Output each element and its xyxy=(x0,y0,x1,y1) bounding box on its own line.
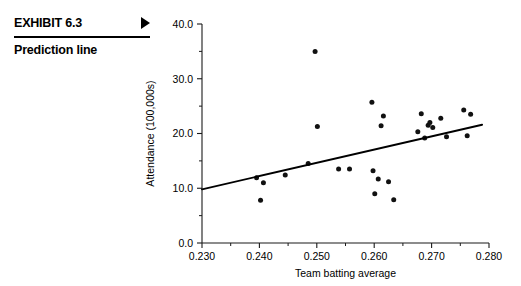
data-point xyxy=(438,116,443,121)
exhibit-subtitle-label: Prediction line xyxy=(14,43,156,57)
x-tick-label: 0.280 xyxy=(476,250,502,262)
exhibit-header: EXHIBIT 6.3 Prediction line xyxy=(14,14,156,57)
y-tick-label: 10.0 xyxy=(173,182,194,194)
data-point xyxy=(369,100,374,105)
data-point xyxy=(313,49,318,54)
regression-line-layer xyxy=(202,125,482,190)
data-point xyxy=(430,125,435,130)
data-point xyxy=(419,111,424,116)
data-point xyxy=(391,197,396,202)
exhibit-title-row: EXHIBIT 6.3 xyxy=(14,14,156,32)
data-points-layer xyxy=(254,49,473,203)
x-tick-label: 0.230 xyxy=(189,250,215,262)
exhibit-number-label: EXHIBIT 6.3 xyxy=(14,16,82,30)
x-tick-label: 0.260 xyxy=(361,250,387,262)
y-tick-label: 30.0 xyxy=(173,73,194,85)
x-tick-label: 0.270 xyxy=(418,250,444,262)
y-tick-label: 20.0 xyxy=(173,127,194,139)
data-point xyxy=(372,191,377,196)
data-point xyxy=(376,176,381,181)
y-axis: 0.010.020.030.040.0 xyxy=(173,18,202,249)
data-point xyxy=(258,198,263,203)
data-point xyxy=(427,120,432,125)
data-point xyxy=(415,129,420,134)
y-axis-title: Attendance (100,000s) xyxy=(144,80,156,186)
data-point xyxy=(381,113,386,118)
data-point xyxy=(347,167,352,172)
data-point xyxy=(465,133,470,138)
data-point xyxy=(371,168,376,173)
y-tick-label: 0.0 xyxy=(178,237,193,249)
data-point xyxy=(336,167,341,172)
chart-canvas: 0.010.020.030.040.0 0.2300.2400.2500.260… xyxy=(138,8,513,280)
y-tick-label: 40.0 xyxy=(173,18,194,30)
exhibit-divider xyxy=(14,36,150,38)
scatter-chart: 0.010.020.030.040.0 0.2300.2400.2500.260… xyxy=(138,8,513,280)
x-axis: 0.2300.2400.2500.2600.2700.280 xyxy=(189,243,502,262)
data-point xyxy=(261,180,266,185)
data-point xyxy=(468,112,473,117)
x-axis-title: Team batting average xyxy=(295,267,396,279)
prediction-line xyxy=(202,125,482,190)
data-point xyxy=(315,124,320,129)
x-tick-label: 0.240 xyxy=(246,250,272,262)
data-point xyxy=(386,179,391,184)
data-point xyxy=(283,173,288,178)
data-point xyxy=(461,107,466,112)
data-point xyxy=(444,134,449,139)
x-tick-label: 0.250 xyxy=(304,250,330,262)
data-point xyxy=(379,123,384,128)
